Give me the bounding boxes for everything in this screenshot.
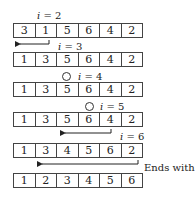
arrow-left-icon: [0, 0, 195, 199]
